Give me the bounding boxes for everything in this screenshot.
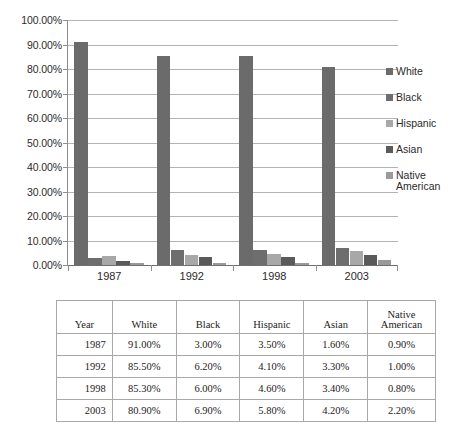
bar (199, 257, 213, 265)
table-cell-asian: 3.40% (304, 378, 368, 400)
table-column-header: White (112, 301, 176, 334)
table-cell-white: 85.50% (112, 356, 176, 378)
table-cell-hispanic: 4.10% (240, 356, 304, 378)
table-cell-year: 1998 (57, 378, 113, 400)
table-cell-native: 2.20% (368, 400, 436, 422)
table-column-header: Year (57, 301, 113, 334)
legend-swatch-icon (386, 94, 393, 101)
y-axis-tick-label: 40.00% (27, 161, 62, 173)
legend-item[interactable]: Black (386, 92, 460, 118)
x-axis-category-label: 1992 (180, 270, 204, 282)
x-axis-category-label: 1987 (97, 270, 121, 282)
table-cell-black: 6.20% (176, 356, 240, 378)
bar (267, 254, 281, 265)
table-cell-black: 6.90% (176, 400, 240, 422)
legend-item[interactable]: Hispanic (386, 118, 460, 144)
legend-swatch-icon (386, 146, 393, 153)
bar (322, 67, 336, 265)
bar-series-container (68, 20, 398, 265)
table-cell-native: 0.90% (368, 334, 436, 356)
table-cell-hispanic: 4.60% (240, 378, 304, 400)
x-axis-category-label: 1998 (262, 270, 286, 282)
legend-label: Black (396, 92, 422, 103)
data-table-wrapper: YearWhiteBlackHispanicAsianNative Americ… (56, 300, 436, 400)
table-cell-year: 2003 (57, 400, 113, 422)
data-table: YearWhiteBlackHispanicAsianNative Americ… (56, 300, 436, 422)
y-axis-tick-label: 10.00% (27, 235, 62, 247)
legend-item[interactable]: Asian (386, 144, 460, 170)
bar (364, 255, 378, 265)
bar (74, 42, 88, 265)
y-axis-tick-label: 70.00% (27, 88, 62, 100)
legend-label: Hispanic (396, 118, 436, 129)
table-cell-native: 0.80% (368, 378, 436, 400)
table-row: 199285.50%6.20%4.10%3.30%1.00% (57, 356, 436, 378)
bar-chart: 0.00%10.00%20.00%30.00%40.00%50.00%60.00… (0, 0, 460, 292)
legend-label: Asian (396, 144, 422, 155)
table-row: 198791.00%3.00%3.50%1.60%0.90% (57, 334, 436, 356)
y-axis-tick-label: 80.00% (27, 63, 62, 75)
table-cell-hispanic: 3.50% (240, 334, 304, 356)
bar (336, 248, 350, 265)
x-axis-category-label: 2003 (345, 270, 369, 282)
y-axis-tick-label: 20.00% (27, 210, 62, 222)
plot-area (68, 20, 398, 265)
table-cell-year: 1992 (57, 356, 113, 378)
bar (239, 56, 253, 265)
table-cell-white: 91.00% (112, 334, 176, 356)
table-cell-black: 3.00% (176, 334, 240, 356)
bar (157, 56, 171, 265)
y-axis-tick-label: 100.00% (21, 14, 62, 26)
table-header-row: YearWhiteBlackHispanicAsianNative Americ… (57, 301, 436, 334)
table-cell-asian: 4.20% (304, 400, 368, 422)
table-cell-asian: 1.60% (304, 334, 368, 356)
y-axis-labels: 0.00%10.00%20.00%30.00%40.00%50.00%60.00… (0, 0, 66, 292)
table-body: 198791.00%3.00%3.50%1.60%0.90%199285.50%… (57, 334, 436, 422)
table-cell-asian: 3.30% (304, 356, 368, 378)
x-axis-labels: 1987199219982003 (68, 270, 398, 288)
bar (171, 250, 185, 265)
y-axis-tick-label: 50.00% (27, 137, 62, 149)
legend-swatch-icon (386, 68, 393, 75)
bar (185, 255, 199, 265)
figure-chart-and-table: 0.00%10.00%20.00%30.00%40.00%50.00%60.00… (0, 0, 460, 435)
table-column-header: Asian (304, 301, 368, 334)
table-cell-black: 6.00% (176, 378, 240, 400)
table-column-header: Hispanic (240, 301, 304, 334)
table-cell-hispanic: 5.80% (240, 400, 304, 422)
table-row: 200380.90%6.90%5.80%4.20%2.20% (57, 400, 436, 422)
legend-item[interactable]: Native American (386, 170, 460, 200)
chart-legend: WhiteBlackHispanicAsianNative American (386, 66, 460, 200)
bar (88, 258, 102, 265)
legend-item[interactable]: White (386, 66, 460, 92)
table-cell-white: 80.90% (112, 400, 176, 422)
legend-swatch-icon (386, 120, 393, 127)
table-column-header: Black (176, 301, 240, 334)
legend-swatch-icon (386, 172, 393, 179)
legend-label: Native American (396, 170, 440, 192)
table-row: 199885.30%6.00%4.60%3.40%0.80% (57, 378, 436, 400)
y-axis-tick-label: 0.00% (33, 259, 62, 271)
bar (102, 256, 116, 265)
bar (281, 257, 295, 265)
y-axis-tick-label: 90.00% (27, 39, 62, 51)
table-cell-white: 85.30% (112, 378, 176, 400)
y-axis-tick-label: 30.00% (27, 186, 62, 198)
y-axis-tick-label: 60.00% (27, 112, 62, 124)
legend-label: White (396, 66, 423, 77)
table-cell-year: 1987 (57, 334, 113, 356)
bar (253, 250, 267, 265)
table-column-header: Native American (368, 301, 436, 334)
bar (350, 251, 364, 265)
table-cell-native: 1.00% (368, 356, 436, 378)
